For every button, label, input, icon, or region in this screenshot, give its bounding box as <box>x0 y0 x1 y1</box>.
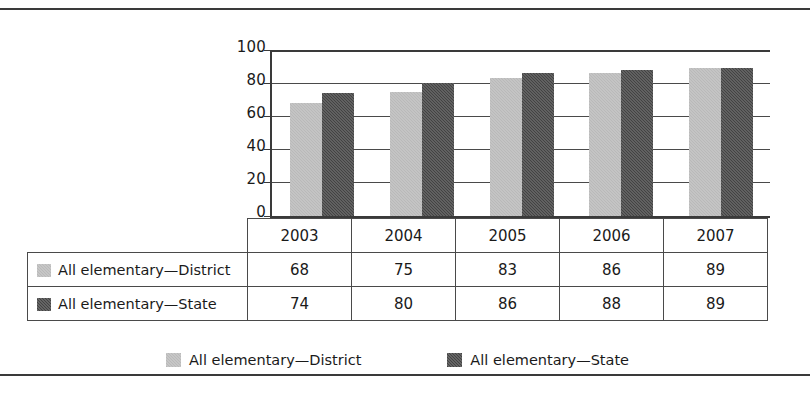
bar-group-2005 <box>471 50 571 216</box>
bar-state-2004 <box>422 83 454 216</box>
state-swatch-icon <box>37 298 51 311</box>
district-swatch-icon <box>166 353 181 367</box>
bar-district-2007 <box>689 68 721 216</box>
data-table: 2003 2004 2005 2006 2007 All elementary—… <box>27 218 768 321</box>
y-tick-label-60: 60 <box>218 106 266 121</box>
column-header-2006: 2006 <box>560 219 664 253</box>
bar-chart: 100 80 60 40 20 0 <box>0 0 810 230</box>
bottom-rule <box>0 374 810 376</box>
y-tick-label-40: 40 <box>218 139 266 154</box>
table-corner-cell <box>28 219 248 253</box>
bar-state-2005 <box>522 73 554 216</box>
y-tick-label-100: 100 <box>218 40 266 55</box>
bar-district-2004 <box>390 92 422 217</box>
row-label-state-text: All elementary—State <box>58 296 217 312</box>
row-label-district-text: All elementary—District <box>58 262 230 278</box>
cell-state-2006: 88 <box>560 287 664 321</box>
bar-state-2007 <box>721 68 753 216</box>
y-axis-labels: 100 80 60 40 20 0 <box>218 40 266 226</box>
row-label-district: All elementary—District <box>28 253 248 287</box>
figure-container: 100 80 60 40 20 0 2003 2 <box>0 0 810 398</box>
table-row: All elementary—State 74 80 86 88 89 <box>28 287 768 321</box>
cell-state-2005: 86 <box>456 287 560 321</box>
legend-item-district: All elementary—District <box>166 352 361 368</box>
district-swatch-icon <box>37 264 51 277</box>
legend-label-district: All elementary—District <box>189 352 361 368</box>
cell-state-2003: 74 <box>248 287 352 321</box>
bar-group-2003 <box>271 50 371 216</box>
y-tick-label-20: 20 <box>218 172 266 187</box>
state-swatch-icon <box>447 353 462 367</box>
column-header-2003: 2003 <box>248 219 352 253</box>
cell-district-2004: 75 <box>352 253 456 287</box>
cell-district-2007: 89 <box>664 253 768 287</box>
cell-district-2003: 68 <box>248 253 352 287</box>
bar-state-2003 <box>322 93 354 216</box>
column-header-2007: 2007 <box>664 219 768 253</box>
cell-district-2005: 83 <box>456 253 560 287</box>
chart-legend: All elementary—District All elementary—S… <box>27 350 768 370</box>
cell-district-2006: 86 <box>560 253 664 287</box>
table-header-row: 2003 2004 2005 2006 2007 <box>28 219 768 253</box>
bar-group-2007 <box>670 50 770 216</box>
bar-state-2006 <box>621 70 653 216</box>
column-header-2005: 2005 <box>456 219 560 253</box>
bar-group-2004 <box>371 50 471 216</box>
cell-state-2004: 80 <box>352 287 456 321</box>
legend-label-state: All elementary—State <box>470 352 629 368</box>
column-header-2004: 2004 <box>352 219 456 253</box>
bar-district-2005 <box>490 78 522 216</box>
bar-district-2006 <box>589 73 621 216</box>
table-row: All elementary—District 68 75 83 86 89 <box>28 253 768 287</box>
cell-state-2007: 89 <box>664 287 768 321</box>
bar-group-2006 <box>570 50 670 216</box>
bar-district-2003 <box>290 103 322 216</box>
row-label-state: All elementary—State <box>28 287 248 321</box>
y-tick-label-80: 80 <box>218 73 266 88</box>
legend-item-state: All elementary—State <box>447 352 629 368</box>
bar-groups <box>271 50 770 216</box>
